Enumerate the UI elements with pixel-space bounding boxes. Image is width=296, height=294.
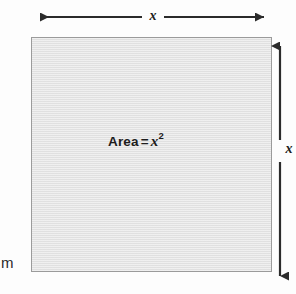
area-word: Area <box>108 134 139 149</box>
square-shape <box>31 37 272 272</box>
top-dimension-label: x <box>146 9 160 23</box>
area-equation-label: Area=x2 <box>0 131 272 150</box>
area-variable: x <box>151 133 159 149</box>
area-exponent: 2 <box>159 130 164 141</box>
geometry-figure: Area=x2 <box>0 0 296 294</box>
equals-sign: = <box>139 134 151 149</box>
right-dimension-label: x <box>282 142 296 156</box>
margin-clipped-text: m <box>1 255 14 270</box>
